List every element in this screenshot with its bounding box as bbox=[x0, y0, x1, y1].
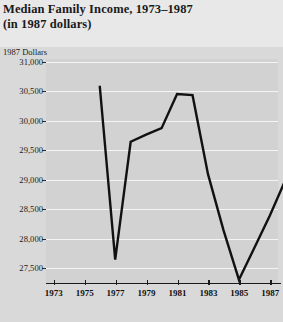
y-axis-tick-mark bbox=[42, 121, 46, 122]
x-axis-tick-mark bbox=[178, 280, 179, 285]
chart-title-line-2: (in 1987 dollars) bbox=[3, 17, 279, 32]
x-axis-tick-label: 1975 bbox=[76, 288, 94, 298]
y-axis-tick-mark bbox=[42, 268, 46, 269]
line-series bbox=[92, 71, 283, 295]
x-axis-tick-mark bbox=[116, 280, 117, 285]
figure: Median Family Income, 1973–1987 (in 1987… bbox=[0, 0, 283, 322]
x-axis-tick-mark bbox=[85, 280, 86, 285]
x-axis-tick-label: 1979 bbox=[138, 288, 156, 298]
y-axis-tick-mark bbox=[42, 209, 46, 210]
y-axis-tick-mark bbox=[42, 150, 46, 151]
y-axis-tick-label: 30,500 bbox=[19, 86, 43, 96]
y-axis-tick-label: 28,500 bbox=[19, 204, 43, 214]
y-axis-tick-mark bbox=[42, 91, 46, 92]
y-axis-tick-mark bbox=[42, 180, 46, 181]
y-axis-tick-label: 29,000 bbox=[19, 175, 43, 185]
x-axis-tick-label: 1987 bbox=[261, 288, 279, 298]
x-axis-tick-mark bbox=[270, 280, 271, 285]
chart-title-line-1: Median Family Income, 1973–1987 bbox=[3, 2, 279, 17]
median-income-line bbox=[100, 86, 283, 280]
x-axis-tick-label: 1985 bbox=[230, 288, 248, 298]
y-axis-tick-label: 29,500 bbox=[19, 145, 43, 155]
y-axis-title: 1987 Dollars bbox=[3, 47, 47, 57]
x-axis-tick-mark bbox=[54, 280, 55, 285]
plot-canvas bbox=[46, 59, 278, 283]
y-axis-tick-mark bbox=[42, 62, 46, 63]
y-axis-tick-mark bbox=[42, 239, 46, 240]
x-axis-tick-label: 1977 bbox=[107, 288, 125, 298]
y-axis-tick-label: 28,000 bbox=[19, 234, 43, 244]
chart-plot-region: 1987 Dollars 27,50028,00028,50029,00029,… bbox=[0, 47, 283, 322]
x-axis-tick-mark bbox=[208, 280, 209, 285]
x-axis-line bbox=[46, 283, 281, 284]
y-axis-tick-label: 27,500 bbox=[19, 263, 43, 273]
gridline bbox=[46, 62, 278, 63]
x-axis-tick-mark bbox=[239, 280, 240, 285]
y-axis-tick-label: 30,000 bbox=[19, 116, 43, 126]
x-axis-tick-label: 1973 bbox=[45, 288, 63, 298]
y-axis-tick-label: 31,000 bbox=[19, 57, 43, 67]
chart-title: Median Family Income, 1973–1987 (in 1987… bbox=[3, 2, 279, 32]
x-axis-tick-label: 1983 bbox=[199, 288, 217, 298]
x-axis-tick-label: 1981 bbox=[169, 288, 187, 298]
x-axis-tick-mark bbox=[147, 280, 148, 285]
